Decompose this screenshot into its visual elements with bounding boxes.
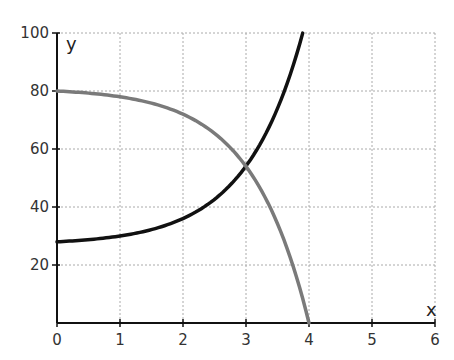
y-tick-label: 40 [30,198,49,216]
axes [52,33,435,327]
grid-lines [57,33,435,323]
x-tick-label: 6 [430,331,440,349]
y-tick-label: 20 [30,256,49,274]
x-tick-label: 2 [178,331,188,349]
x-tick-label: 5 [367,331,377,349]
x-tick-label: 4 [304,331,314,349]
y-tick-label: 80 [30,82,49,100]
x-tick-label: 0 [52,331,62,349]
y-tick-label: 60 [30,140,49,158]
y-tick-label: 100 [20,24,49,42]
y-axis-label: y [66,33,77,54]
x-axis-label: x [426,299,437,320]
x-tick-label: 1 [115,331,125,349]
series-increasing-curve [57,33,303,242]
line-chart: 012345620406080100 x y [0,0,454,360]
x-tick-label: 3 [241,331,251,349]
